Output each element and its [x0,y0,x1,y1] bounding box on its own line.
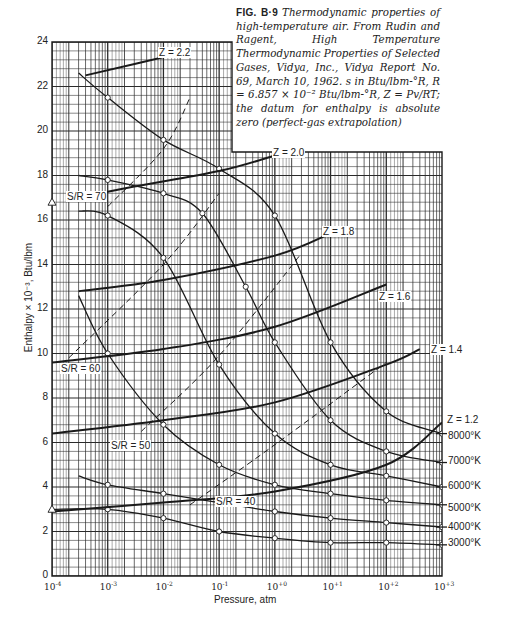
data-marker [384,449,389,454]
y-tick-label: 12 [28,302,48,313]
data-marker [243,284,248,289]
triangle-marker [48,198,56,205]
data-marker [161,191,166,196]
y-tick-label: 16 [28,213,48,224]
isotherm-label-4000: 4000°K [447,521,482,532]
y-tick-label: 10 [28,347,48,358]
data-marker [161,422,166,427]
z-label-1-8: Z = 1.8 [322,226,355,237]
isotherm-label-5000: 5000°K [447,502,482,513]
x-tick-label: 10+0 [267,580,287,592]
data-marker [328,491,333,496]
data-marker [272,482,277,487]
data-marker [384,498,389,503]
y-tick-label: 0 [28,569,48,580]
data-marker [105,95,110,100]
figure-caption: FIG. B·9Thermodynamic properties of high… [236,6,440,129]
data-marker [384,540,389,545]
data-marker [200,211,205,216]
isotherm-label-6000: 6000°K [447,480,482,491]
data-marker [105,482,110,487]
data-marker [161,516,166,521]
data-marker [272,509,277,514]
figure-label: FIG. B·9 [236,7,278,18]
x-tick-label: 10-2 [155,580,172,592]
x-tick-label: 10+2 [378,580,398,592]
y-tick-label: 6 [28,436,48,447]
caption-text: Thermodynamic properties of high-tempera… [236,6,440,128]
y-tick-label: 4 [28,480,48,491]
x-tick-label: 10-4 [44,580,61,592]
data-marker [328,540,333,545]
y-tick-label: 20 [28,124,48,135]
data-marker [161,137,166,142]
data-marker [384,409,389,414]
y-tick-label: 24 [28,35,48,46]
y-tick-label: 22 [28,80,48,91]
data-marker [105,213,110,218]
data-marker [272,536,277,541]
data-marker [328,462,333,467]
x-axis-label: Pressure, atm [214,594,276,605]
data-marker [217,529,222,534]
y-tick-label: 8 [28,391,48,402]
isotherm-label-3000: 3000°K [447,537,482,548]
data-marker [105,177,110,182]
y-tick-label: 2 [28,525,48,536]
y-tick-label: 18 [28,169,48,180]
x-tick-label: 10-1 [211,580,228,592]
isotherm-label-7000: 7000°K [447,455,482,466]
z-label-2-0: Z = 2.0 [272,147,305,158]
data-marker [328,340,333,345]
entropy-label-60: S/R = 60 [60,363,101,374]
x-tick-label: 10-3 [100,580,117,592]
data-marker [217,362,222,367]
x-tick-label: 10+1 [323,580,343,592]
x-tick-label: 10+3 [434,580,454,592]
z-label-1-2: Z = 1.2 [446,414,479,425]
entropy-label-70: S/R = 70 [66,191,107,202]
entropy-line [69,193,219,358]
data-marker [217,462,222,467]
y-tick-label: 14 [28,258,48,269]
data-marker [161,491,166,496]
isotherm-label-8000: 8000°K [447,430,482,441]
data-marker [161,255,166,260]
data-marker [272,213,277,218]
data-marker [272,431,277,436]
data-marker [328,516,333,521]
z-label-2-2: Z = 2.2 [158,47,191,58]
data-marker [272,340,277,345]
data-marker [384,473,389,478]
entropy-label-40: S/R = 40 [215,496,256,507]
entropy-label-50: S/R = 50 [110,440,151,451]
data-marker [328,418,333,423]
z-label-1-6: Z = 1.6 [378,291,411,302]
z-label-1-4: Z = 1.4 [430,344,463,355]
data-marker [384,520,389,525]
